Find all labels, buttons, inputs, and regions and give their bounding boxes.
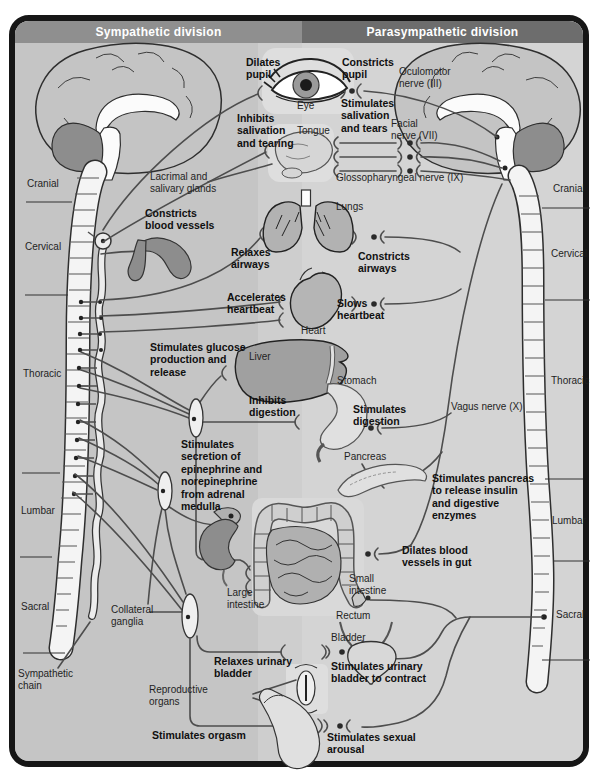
label-reproductive-organs: Reproductive organs [149, 684, 208, 708]
label-constricts-airways: Constricts airways [358, 250, 410, 275]
label-dilates-gut-vessels: Dilates blood vessels in gut [402, 544, 471, 569]
brain-illustration [36, 43, 221, 180]
label-relaxes-airways: Relaxes airways [231, 246, 271, 271]
label-accelerates-heartbeat: Accelerates heartbeat [227, 291, 286, 316]
label-lumbar-left: Lumbar [21, 505, 55, 517]
label-rectum: Rectum [336, 610, 370, 622]
label-lungs: Lungs [336, 201, 363, 213]
autonomic-nervous-system-diagram: Sympathetic division Parasympathetic div… [0, 0, 606, 782]
label-lumbar-right: Lumbar [552, 515, 586, 527]
label-stimulates-epinephrine: Stimulates secretion of epinephrine and … [181, 438, 262, 512]
label-liver: Liver [249, 351, 271, 363]
label-sympathetic-chain: Sympathetic chain [18, 668, 73, 692]
label-cervical-left: Cervical [25, 241, 61, 253]
small-intestine-illustration [267, 527, 341, 604]
pancreas-illustration [338, 464, 426, 496]
label-stimulates-urinary-bladder: Stimulates urinary bladder to contract [331, 660, 426, 685]
label-eye: Eye [297, 100, 314, 112]
label-stimulates-digestion: Stimulates digestion [353, 403, 406, 428]
label-large-intestine: Large intestine [227, 587, 264, 611]
label-heart: Heart [301, 325, 325, 337]
label-facial-nerve: Facial nerve (VII) [391, 118, 438, 142]
label-relaxes-urinary-bladder: Relaxes urinary bladder [214, 655, 292, 680]
label-bladder: Bladder [331, 632, 365, 644]
label-constricts-pupil: Constricts pupil [342, 56, 394, 81]
label-lacrimal-glands: Lacrimal and salivary glands [150, 171, 216, 195]
label-stimulates-pancreas: Stimulates pancreas to release insulin a… [432, 472, 534, 522]
heart-illustration [290, 268, 341, 329]
lungs-illustration [263, 190, 353, 252]
label-cranial-left: Cranial [27, 178, 59, 190]
label-cervical-right: Cervical [551, 248, 587, 260]
label-glossopharyngeal-nerve: Glossopharyngeal nerve (IX) [336, 172, 463, 184]
label-sacral-right: Sacral [556, 609, 584, 621]
label-sacral-left: Sacral [21, 601, 49, 613]
label-slows-heartbeat: Slows heartbeat [337, 297, 384, 322]
label-collateral-ganglia: Collateral ganglia [111, 604, 153, 628]
label-small-intestine: Small intestine [349, 573, 386, 597]
label-vagus-nerve: Vagus nerve (X) [451, 401, 523, 413]
label-tongue: Tongue [297, 125, 330, 137]
label-thoracic-left: Thoracic [23, 368, 61, 380]
label-stimulates-salivation: Stimulates salivation and tears [341, 97, 394, 134]
label-cranial-right: Cranial [553, 183, 585, 195]
label-inhibits-salivation: Inhibits salivation and tearing [237, 112, 294, 149]
label-inhibits-digestion: Inhibits digestion [249, 394, 296, 419]
label-stimulates-glucose: Stimulates glucose production and releas… [150, 341, 246, 378]
label-stomach: Stomach [337, 375, 376, 387]
adrenal-kidney-illustration [200, 508, 241, 586]
label-dilates-pupil: Dilates pupil [246, 56, 280, 81]
label-constricts-blood-vessels: Constricts blood vessels [145, 207, 214, 232]
label-oculomotor-nerve: Oculomotor nerve (III) [399, 66, 451, 90]
blood-vessel-illustration [128, 238, 191, 281]
label-pancreas: Pancreas [344, 451, 386, 463]
brain-illustration-right [395, 43, 580, 180]
diagram-artwork [0, 0, 606, 782]
right-spinal-cord [519, 176, 550, 682]
label-thoracic-right: Thoracic [551, 375, 589, 387]
label-stimulates-orgasm: Stimulates orgasm [152, 729, 246, 741]
label-stimulates-sexual-arousal: Stimulates sexual arousal [327, 731, 416, 756]
